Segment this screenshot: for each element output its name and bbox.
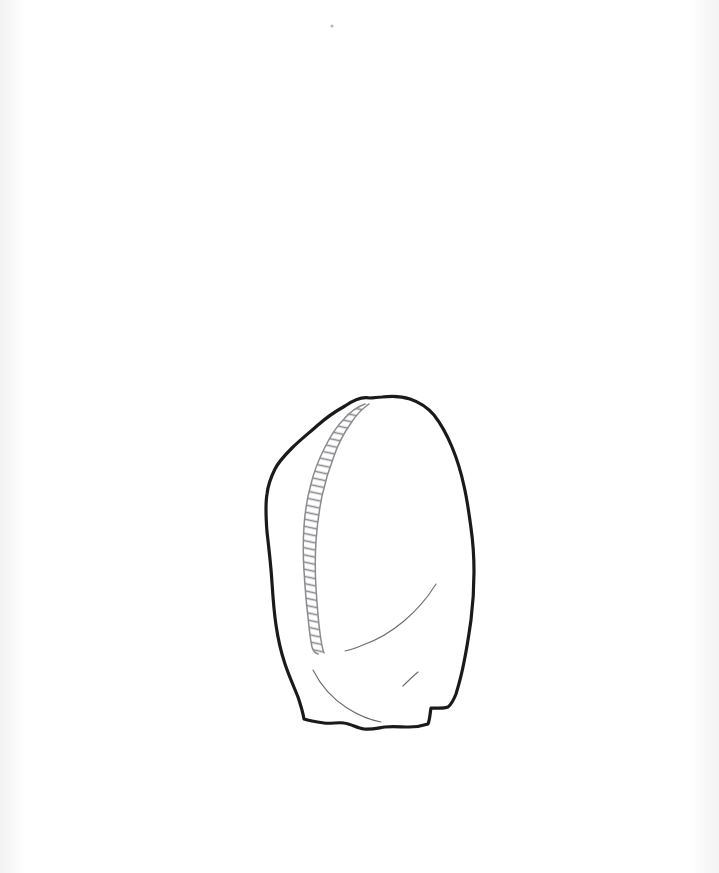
document-page xyxy=(0,0,719,873)
artifact-figure xyxy=(0,0,719,873)
drawing-surface xyxy=(0,0,719,873)
scan-speck xyxy=(330,24,333,27)
artifact-outline xyxy=(266,396,474,729)
